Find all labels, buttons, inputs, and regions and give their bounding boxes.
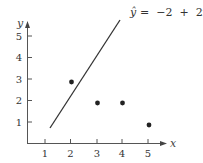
axes — [25, 21, 167, 146]
data-point — [120, 101, 125, 106]
x-tick-label: 5 — [145, 148, 151, 159]
x-ticks — [45, 139, 148, 144]
y-ticks — [28, 36, 33, 122]
y-tick-label: 4 — [16, 52, 22, 63]
x-axis-arrow-icon — [160, 141, 167, 146]
y-tick-labels: 1 2 3 4 5 — [16, 31, 22, 128]
y-tick-label: 3 — [16, 74, 22, 85]
y-axis-arrow-icon — [25, 21, 30, 28]
x-tick-label: 1 — [42, 148, 48, 159]
data-point — [95, 101, 100, 106]
x-tick-label: 3 — [94, 148, 100, 159]
equation-rhs: = −2 + 2x — [140, 6, 203, 19]
x-axis-label: x — [170, 137, 177, 150]
x-tick-labels: 1 2 3 4 5 — [42, 148, 151, 159]
equation-label: ŷ = −2 + 2x — [129, 6, 203, 19]
y-tick-label: 2 — [16, 95, 22, 106]
x-tick-label: 4 — [119, 148, 125, 159]
regression-line — [50, 20, 120, 128]
data-point — [69, 80, 74, 85]
data-point — [147, 123, 152, 128]
x-tick-label: 2 — [67, 148, 73, 159]
y-axis-label: y — [16, 17, 24, 30]
y-tick-label: 1 — [16, 117, 22, 128]
y-tick-label: 5 — [16, 31, 22, 42]
data-points — [69, 80, 151, 128]
scatter-plot: 1 2 3 4 5 1 2 3 4 5 x y ŷ = −2 + 2x — [0, 0, 203, 163]
equation-lhs: ŷ — [129, 6, 137, 19]
